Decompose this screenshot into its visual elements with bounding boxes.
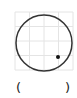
close-paren: ) xyxy=(65,80,70,95)
open-paren: ( xyxy=(16,80,21,95)
joystick-pad[interactable] xyxy=(0,0,77,80)
joystick-widget[interactable]: ( ) xyxy=(0,0,77,98)
coordinate-label: ( ) xyxy=(12,82,74,96)
position-marker[interactable] xyxy=(56,55,60,59)
